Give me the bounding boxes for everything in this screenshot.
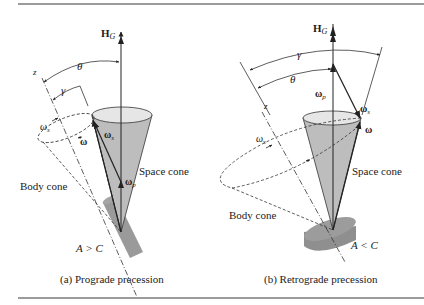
label-omega-b: ω	[365, 124, 372, 135]
label-omega-s-italic-b: ωs	[256, 133, 266, 146]
label-omega-a: ω	[80, 136, 87, 147]
label-omega-p-b: ωp	[315, 88, 326, 101]
label-inertia-a: A > C	[75, 242, 103, 254]
label-space-cone-a: Space cone	[139, 165, 189, 177]
label-hg-b: HG	[313, 22, 328, 36]
label-z-b: z	[263, 101, 268, 111]
label-hg-a: HG	[101, 27, 116, 41]
gamma-arc-a	[53, 86, 80, 100]
caption-b: (b) Retrograde precession	[264, 273, 378, 286]
panel-prograde: HG z θ γ ωs ω ωs ωp Space cone Body cone…	[20, 27, 189, 297]
label-inertia-b: A < C	[350, 239, 378, 251]
panel-retrograde: HG γ θ ωp z ωs ω ωs Space cone Body cone…	[220, 22, 402, 286]
label-omega-s-bold-b: ωs	[360, 103, 370, 116]
label-gamma-a: γ	[61, 84, 66, 96]
label-space-cone-b: Space cone	[352, 165, 402, 177]
label-body-cone-b: Body cone	[229, 209, 276, 221]
label-body-cone-a: Body cone	[20, 180, 67, 192]
omega-s-vector-b	[333, 64, 360, 118]
label-theta-a: θ	[77, 60, 83, 72]
label-theta-b: θ	[290, 73, 296, 85]
label-gamma-b: γ	[297, 48, 302, 60]
precession-figure: HG z θ γ ωs ω ωs ωp Space cone Body cone…	[0, 0, 424, 305]
caption-a: (a) Prograde precession	[60, 273, 164, 286]
gamma-arc-b	[250, 50, 380, 70]
label-z-a: z	[32, 67, 37, 77]
label-omega-s-italic-a: ωs	[40, 121, 50, 134]
